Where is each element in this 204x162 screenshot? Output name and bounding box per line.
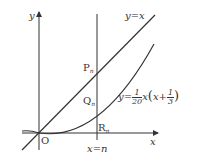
line-y-equals-x	[22, 15, 155, 150]
point-r-label: Rn	[98, 123, 109, 134]
point-q-label: Qn	[83, 96, 95, 107]
origin-label: O	[41, 136, 49, 146]
point-p-label: Pn	[83, 63, 94, 74]
fraction-1-3: 13	[167, 89, 174, 106]
diagram-graphics	[0, 0, 204, 162]
curve-label: y=120x(x+13)	[118, 89, 179, 106]
fraction-1-20: 120	[132, 89, 142, 106]
y-axis-label: y	[29, 11, 35, 21]
x-axis-label: x	[150, 137, 156, 147]
line-label: y=x	[125, 11, 145, 21]
math-diagram: y x O y=x x=n Pn Qn Rn y=120x(x+13)	[0, 0, 204, 162]
vertical-line-label: x=n	[87, 144, 107, 154]
